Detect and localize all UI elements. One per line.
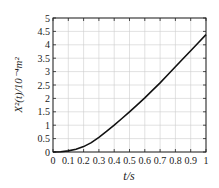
- y-tick-label: 3: [45, 66, 50, 77]
- chart: 00.10.20.30.40.50.60.70.80.9100.511.522.…: [0, 0, 219, 188]
- y-tick-label: 2.5: [38, 80, 51, 91]
- x-tick-label: 0.7: [154, 155, 167, 166]
- axis-ticks: 00.10.20.30.40.50.60.70.80.9100.511.522.…: [38, 13, 209, 167]
- x-tick-label: 0.2: [77, 155, 90, 166]
- y-tick-label: 4.5: [38, 26, 51, 37]
- y-tick-label: 1.5: [38, 106, 51, 117]
- y-tick-label: 0: [45, 147, 50, 158]
- y-tick-label: 3.5: [38, 53, 51, 64]
- x-tick-label: 0.8: [169, 155, 182, 166]
- x-tick-label: 0.9: [184, 155, 197, 166]
- x-tick-label: 0.5: [123, 155, 136, 166]
- x-axis-label: t/s: [123, 169, 135, 183]
- x-tick-label: 1: [204, 155, 209, 166]
- x-tick-label: 0.3: [93, 155, 106, 166]
- y-tick-label: 2: [45, 93, 50, 104]
- y-tick-label: 5: [45, 13, 50, 24]
- x-tick-label: 0: [51, 155, 56, 166]
- x-tick-label: 0.1: [62, 155, 75, 166]
- grid-lines: [53, 18, 206, 152]
- y-axis-label: X²(t)/10⁻⁴m²: [12, 57, 25, 114]
- y-tick-label: 0.5: [38, 133, 51, 144]
- x-tick-label: 0.6: [139, 155, 152, 166]
- y-tick-label: 4: [45, 39, 50, 50]
- x-tick-label: 0.4: [108, 155, 121, 166]
- y-tick-label: 1: [45, 120, 50, 131]
